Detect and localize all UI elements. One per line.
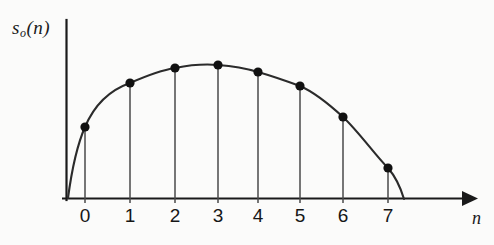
plot-canvas xyxy=(0,0,494,245)
x-tick-label-6: 6 xyxy=(338,205,349,227)
sample-point-n5 xyxy=(295,81,304,90)
x-tick-label-2: 2 xyxy=(170,205,181,227)
x-axis-arrow-icon xyxy=(462,191,478,206)
sample-point-n1 xyxy=(125,78,134,87)
x-tick-label-4: 4 xyxy=(253,205,264,227)
x-tick-label-7: 7 xyxy=(383,205,394,227)
x-axis-label: n xyxy=(472,208,481,229)
sample-markers-group xyxy=(80,60,392,172)
x-tick-label-5: 5 xyxy=(295,205,306,227)
sample-point-n0 xyxy=(80,122,89,131)
figure-sampled-signal-plot: so(n) 0 1 2 3 4 5 6 7 n xyxy=(0,0,494,245)
sample-point-n3 xyxy=(213,60,222,69)
sample-point-n4 xyxy=(253,67,262,76)
x-tick-label-0: 0 xyxy=(80,205,91,227)
sample-point-n6 xyxy=(338,112,347,121)
x-tick-label-3: 3 xyxy=(213,205,224,227)
y-axis-label: so(n) xyxy=(12,17,50,41)
axes-group xyxy=(62,20,478,206)
sample-point-n2 xyxy=(170,63,179,72)
signal-envelope-curve xyxy=(68,65,404,199)
y-axis-label-argument: (n) xyxy=(26,17,50,38)
y-axis-label-base: s xyxy=(12,17,20,38)
x-tick-label-1: 1 xyxy=(125,205,136,227)
sample-point-n7 xyxy=(383,163,392,172)
